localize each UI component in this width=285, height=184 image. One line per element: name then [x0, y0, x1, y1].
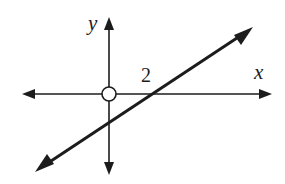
origin-marker-icon: [102, 87, 116, 101]
plotted-line-lower-left-arrowhead: [35, 154, 54, 172]
x-intercept-label: 2: [141, 65, 151, 85]
plotted-line-segment: [45, 34, 243, 165]
x-axis-left-arrowhead: [22, 89, 35, 99]
plotted-line-upper-right-arrowhead: [234, 27, 253, 45]
coordinate-plane-figure: y x 2: [0, 0, 285, 184]
x-axis-right-arrowhead: [259, 89, 272, 99]
plotted-line: [35, 27, 253, 172]
y-axis-label: y: [88, 13, 97, 34]
y-axis-bottom-arrowhead: [104, 162, 114, 175]
x-axis-label: x: [254, 62, 263, 83]
y-axis-top-arrowhead: [104, 17, 114, 30]
figure-canvas: [0, 0, 285, 184]
